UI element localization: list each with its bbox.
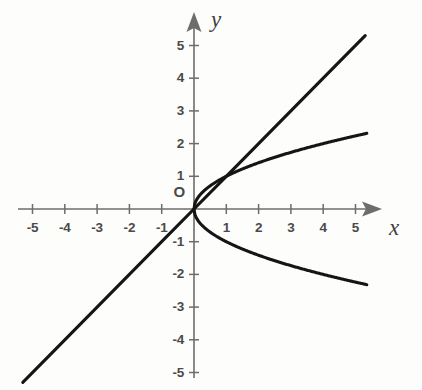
x-tick-label: -2 [124,221,136,235]
y-tick-label: 4 [177,71,184,85]
x-tick-label: -5 [27,221,39,235]
y-tick-label: -4 [172,333,184,347]
coordinate-plot [0,0,422,390]
graph-figure: -5-4-3-2-112345 -5-4-3-2-112345 O x y [0,0,422,390]
origin-label: O [174,184,186,199]
x-tick-label: -4 [59,221,71,235]
x-tick-label: 2 [255,221,262,235]
y-tick-label: -5 [172,366,184,380]
y-tick-label: 3 [177,104,184,118]
x-tick-label: -3 [91,221,103,235]
x-axis-label: x [389,216,399,239]
y-axis-label: y [211,8,221,31]
y-tick-label: -1 [172,235,184,249]
y-tick-label: -2 [172,268,184,282]
curve-sqrt-x-lower-branch [194,209,367,285]
y-tick-label: -3 [172,300,184,314]
y-tick-label: 2 [177,137,184,151]
x-tick-label: 5 [352,221,359,235]
x-tick-label: 4 [320,221,327,235]
curve-sqrt-x-upper-branch [194,133,367,209]
x-tick-label: -1 [156,221,168,235]
y-tick-label: 1 [177,170,184,184]
y-tick-label: 5 [177,39,184,53]
x-tick-label: 3 [287,221,294,235]
x-tick-label: 1 [223,221,230,235]
